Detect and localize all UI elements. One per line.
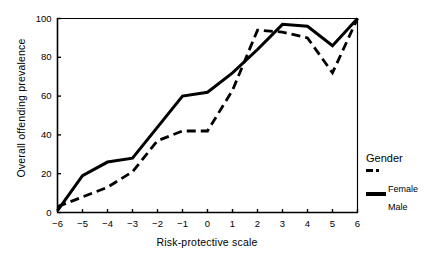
legend-label-female: Female [388, 184, 418, 194]
legend-title: Gender [366, 152, 403, 164]
plot-area [0, 0, 432, 265]
series-line-female [58, 19, 358, 207]
chart-figure: Overall offending prevalence Risk-protec… [0, 0, 432, 265]
legend-label-male: Male [388, 202, 408, 212]
series-line-male [58, 19, 358, 211]
data-series [58, 19, 358, 211]
axis-lines [57, 18, 358, 213]
legend-swatch-female [366, 169, 384, 172]
tick-marks [58, 19, 358, 213]
legend-swatch-male [366, 192, 386, 196]
